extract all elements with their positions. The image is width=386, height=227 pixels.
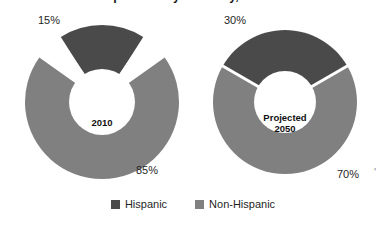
donut-hole-2050: [254, 71, 316, 133]
donut-2050-svg: [205, 22, 365, 182]
data-label-2050-hispanic: 30%: [224, 14, 246, 26]
legend-swatch-icon-hispanic: [111, 200, 120, 209]
legend-label-non-hispanic: Non-Hispanic: [209, 198, 275, 210]
legend-item-hispanic: Hispanic: [111, 198, 167, 210]
chart-title: U.S. Population by Ethnicity, 2010 to 20…: [0, 0, 386, 3]
donut-chart-2010: 2010: [22, 22, 182, 182]
donut-hole-2010: [69, 69, 135, 135]
legend-item-non-hispanic: Non-Hispanic: [195, 198, 275, 210]
data-label-2050-non-hispanic: 70%: [337, 168, 359, 180]
donut-2010-svg: [22, 22, 182, 182]
legend-label-hispanic: Hispanic: [125, 198, 167, 210]
legend-swatch-icon-non-hispanic: [195, 200, 204, 209]
edge-artifact-mark: ': [374, 166, 376, 178]
chart-figure: U.S. Population by Ethnicity, 2010 to 20…: [0, 0, 386, 227]
data-label-2010-non-hispanic: 85%: [136, 164, 158, 176]
chart-legend: Hispanic Non-Hispanic: [0, 198, 386, 210]
data-label-2010-hispanic: 15%: [38, 14, 60, 26]
donut-chart-2050: Projected 2050: [205, 22, 365, 182]
